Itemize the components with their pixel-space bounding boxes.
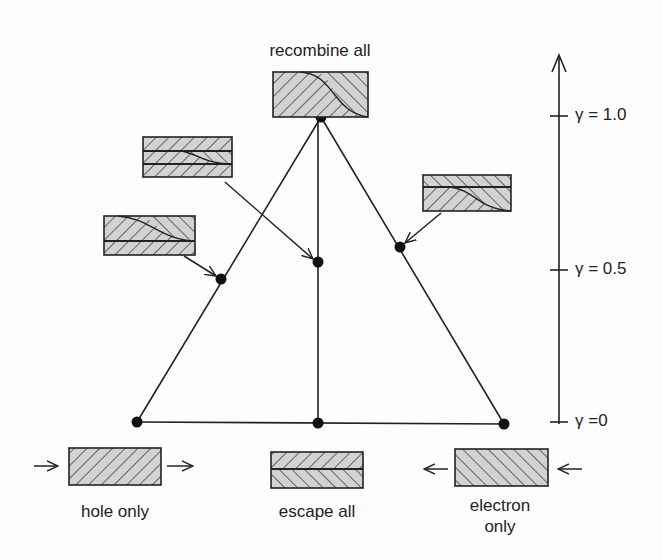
label-escape-all: escape all xyxy=(252,502,382,522)
gamma-axis xyxy=(550,55,568,424)
sample-box-two-layer-left xyxy=(104,216,195,255)
node-bottom-center xyxy=(313,418,324,429)
label-electron-only-line1: electron xyxy=(440,496,560,516)
label-electron-only-line2: only xyxy=(440,517,560,537)
node-center xyxy=(313,257,324,268)
tick-label-gamma-1: γ = 1.0 xyxy=(575,105,627,125)
tick-label-gamma-0: γ =0 xyxy=(575,411,608,431)
label-recombine-all: recombine all xyxy=(250,41,390,61)
node-left-mid xyxy=(216,274,227,285)
diagram-canvas xyxy=(0,0,662,560)
sample-box-electron-only xyxy=(424,449,582,486)
tick-label-gamma-0-5: γ = 0.5 xyxy=(575,259,627,279)
sample-box-escape-all xyxy=(271,452,363,488)
node-bottom-right xyxy=(499,419,510,430)
node-bottom-left xyxy=(132,417,143,428)
label-hole-only: hole only xyxy=(50,502,180,522)
sample-box-two-layer-right xyxy=(423,175,511,211)
pointer-arrows xyxy=(184,182,441,276)
sample-box-recombine-all xyxy=(273,72,368,117)
node-right-mid xyxy=(395,242,406,253)
sample-box-hole-only xyxy=(34,448,193,485)
sample-box-three-layer xyxy=(143,137,232,177)
